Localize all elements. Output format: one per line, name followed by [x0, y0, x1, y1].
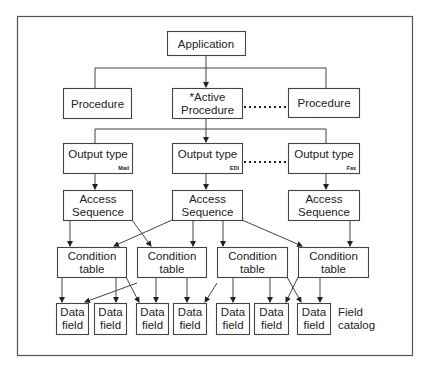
- condition-table-node-2: Condition table: [138, 248, 207, 278]
- condition-table-label-line1: Condition: [228, 250, 277, 262]
- access-sequence-node-2: Access Sequence: [173, 191, 243, 221]
- data-field-label-line2: field: [179, 319, 200, 331]
- field-catalog-label-line2: catalog: [338, 319, 375, 331]
- condition-table-label-line2: table: [240, 263, 265, 275]
- data-field-label-line2: field: [62, 319, 83, 331]
- procedure-label: Procedure: [297, 97, 350, 109]
- data-field-node-4: Data field: [174, 304, 207, 335]
- output-medium-label: Fax: [347, 165, 357, 171]
- procedure-node-left: Procedure: [64, 89, 132, 119]
- data-field-label-line1: Data: [140, 306, 165, 318]
- condition-table-label-line2: table: [321, 263, 346, 275]
- condition-table-label-line1: Condition: [148, 250, 197, 262]
- active-procedure-label-line1: *Active: [190, 91, 226, 103]
- data-field-node-6: Data field: [255, 304, 289, 335]
- data-field-node-3: Data field: [137, 304, 169, 335]
- data-field-label-line2: field: [303, 319, 324, 331]
- condition-table-label-line1: Condition: [309, 250, 358, 262]
- condition-table-node-3: Condition table: [218, 248, 288, 278]
- active-procedure-label-line2: Procedure: [181, 104, 234, 116]
- data-field-label-line2: field: [100, 319, 121, 331]
- output-type-label: Output type: [178, 148, 237, 160]
- data-field-label-line1: Data: [178, 306, 203, 318]
- access-sequence-node-3: Access Sequence: [289, 191, 360, 221]
- data-field-node-5: Data field: [217, 304, 250, 335]
- condition-table-node-4: Condition table: [299, 248, 369, 278]
- condition-table-node-1: Condition table: [58, 248, 127, 278]
- output-type-label: Output type: [294, 148, 353, 160]
- output-type-fax-node: Output type Fax: [289, 144, 360, 174]
- access-sequence-label-line1: Access: [189, 193, 226, 205]
- application-node: Application: [168, 32, 246, 56]
- condition-table-label-line1: Condition: [68, 250, 117, 262]
- output-medium-label: Mail: [118, 165, 129, 171]
- data-field-label-line1: Data: [98, 306, 123, 318]
- data-field-label-line1: Data: [60, 306, 85, 318]
- data-field-node-7: Data field: [298, 304, 331, 335]
- access-sequence-label-line2: Sequence: [182, 206, 234, 218]
- output-medium-label: EDI: [230, 165, 240, 171]
- data-field-label-line2: field: [222, 319, 243, 331]
- data-field-label-line1: Data: [221, 306, 246, 318]
- data-field-label-line1: Data: [259, 306, 284, 318]
- access-sequence-label-line1: Access: [305, 193, 342, 205]
- active-procedure-node: *Active Procedure: [173, 89, 243, 119]
- application-label: Application: [178, 38, 234, 50]
- data-field-label-line1: Data: [302, 306, 327, 318]
- data-field-node-1: Data field: [57, 304, 89, 335]
- access-sequence-node-1: Access Sequence: [64, 191, 133, 221]
- output-type-edi-node: Output type EDI: [173, 144, 243, 174]
- data-field-label-line2: field: [261, 319, 282, 331]
- output-type-label: Output type: [68, 148, 127, 160]
- access-sequence-label-line2: Sequence: [72, 206, 124, 218]
- condition-table-label-line2: table: [160, 263, 185, 275]
- condition-table-label-line2: table: [80, 263, 105, 275]
- access-sequence-label-line1: Access: [79, 193, 116, 205]
- data-field-label-line2: field: [142, 319, 163, 331]
- procedure-hierarchy-diagram: Application Procedure *Active Procedure …: [0, 0, 427, 368]
- procedure-node-right: Procedure: [289, 89, 360, 118]
- access-sequence-label-line2: Sequence: [298, 206, 350, 218]
- field-catalog-label-line1: Field: [338, 306, 363, 318]
- procedure-label: Procedure: [71, 98, 124, 110]
- data-field-node-2: Data field: [95, 304, 127, 335]
- output-type-mail-node: Output type Mail: [64, 144, 133, 174]
